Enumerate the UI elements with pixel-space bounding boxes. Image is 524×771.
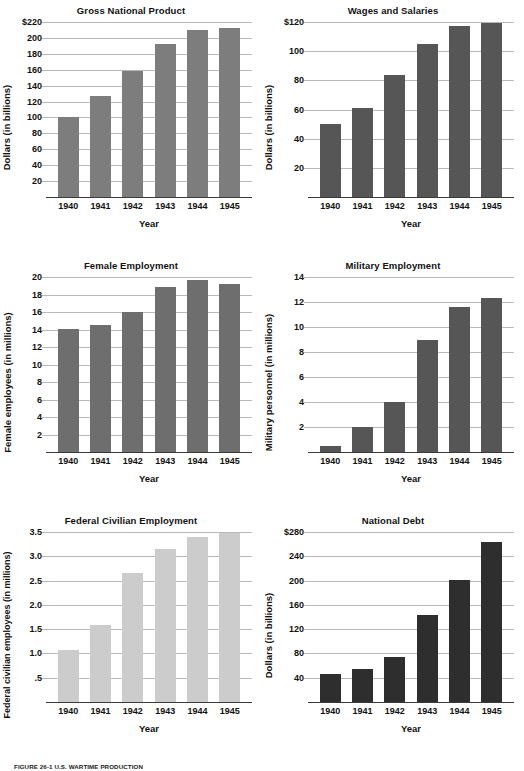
bar-slot <box>411 22 443 197</box>
bar-slot <box>52 277 84 452</box>
chart-panel-national-debt: National Debt Dollars (in billions) 4080… <box>262 510 524 760</box>
y-tick-mark <box>304 556 308 557</box>
plot-area: .51.01.52.02.53.03.5 <box>46 532 252 703</box>
x-tick-label: 1944 <box>443 703 475 716</box>
x-tick-label: 1943 <box>149 453 181 466</box>
y-tick-label: 3.0 <box>29 551 42 561</box>
bar-series <box>314 22 508 197</box>
bar-slot <box>214 22 246 197</box>
y-tick-mark <box>42 117 46 118</box>
bar <box>417 615 438 702</box>
y-tick-mark <box>42 54 46 55</box>
bar-slot <box>411 532 443 702</box>
plot-area: 20406080100$120 <box>308 22 514 198</box>
y-axis-title: Dollars (in billions) <box>262 0 276 255</box>
y-tick-mark <box>304 377 308 378</box>
bar-slot <box>443 22 475 197</box>
bar-slot <box>314 22 346 197</box>
y-tick-label: 20 <box>294 163 304 173</box>
y-tick-mark <box>42 165 46 166</box>
x-tick-label: 1945 <box>214 453 246 466</box>
y-tick-label: 3.5 <box>29 527 42 537</box>
y-tick-mark <box>304 302 308 303</box>
bar-slot <box>52 532 84 702</box>
y-tick-label: $220 <box>22 17 42 27</box>
y-tick-label: 100 <box>27 112 42 122</box>
bar <box>219 28 240 197</box>
bar <box>320 124 341 197</box>
y-tick-mark <box>42 556 46 557</box>
x-tick-label: 1945 <box>214 703 246 716</box>
y-tick-label: 2.5 <box>29 576 42 586</box>
y-tick-label: $280 <box>284 527 304 537</box>
y-tick-mark <box>304 678 308 679</box>
chart-title: Gross National Product <box>0 0 262 16</box>
x-tick-label: 1940 <box>314 453 346 466</box>
y-tick-mark <box>42 417 46 418</box>
y-tick-label: 14 <box>32 325 42 335</box>
y-tick-mark <box>42 277 46 278</box>
bar <box>320 446 341 452</box>
bar <box>384 75 405 198</box>
y-tick-mark <box>42 347 46 348</box>
x-tick-label: 1942 <box>379 453 411 466</box>
y-tick-label: 80 <box>32 128 42 138</box>
x-tick-label: 1942 <box>117 198 149 211</box>
y-tick-mark <box>42 330 46 331</box>
x-tick-label: 1940 <box>52 453 84 466</box>
bar-slot <box>117 277 149 452</box>
y-tick-mark <box>304 352 308 353</box>
bar <box>449 580 470 702</box>
bar-slot <box>84 277 116 452</box>
x-tick-label: 1942 <box>117 453 149 466</box>
x-axis-ticks: 194019411942194319441945 <box>46 703 252 716</box>
bar-slot <box>346 532 378 702</box>
x-tick-label: 1941 <box>84 198 116 211</box>
y-tick-mark <box>42 86 46 87</box>
bar <box>352 108 373 197</box>
bar <box>90 96 111 197</box>
bar <box>122 573 143 702</box>
bar-slot <box>443 277 475 452</box>
chart-title: Female Employment <box>0 255 262 271</box>
y-tick-label: 240 <box>289 551 304 561</box>
y-tick-mark <box>42 605 46 606</box>
y-tick-mark <box>304 629 308 630</box>
y-tick-label: 140 <box>27 81 42 91</box>
chart-panel-female-employment: Female Employment Female employees (in m… <box>0 255 262 510</box>
x-tick-label: 1943 <box>411 703 443 716</box>
figure-caption: FIGURE 26-1 U.S. WARTIME PRODUCTION <box>14 763 143 771</box>
y-tick-label: 10 <box>294 322 304 332</box>
plot-wrap: 20406080100$120 <box>308 22 514 198</box>
bar <box>449 307 470 452</box>
bar <box>90 325 111 452</box>
y-tick-label: 40 <box>294 673 304 683</box>
y-axis-title: Federal civilian employees (in millions) <box>0 510 14 760</box>
y-tick-label: 160 <box>27 65 42 75</box>
y-tick-mark <box>42 70 46 71</box>
x-tick-label: 1943 <box>149 198 181 211</box>
y-tick-label: 18 <box>32 290 42 300</box>
x-axis-title: Year <box>46 218 252 229</box>
bar <box>187 30 208 197</box>
plot-area: 4080120160200240$280 <box>308 532 514 703</box>
bar <box>352 427 373 452</box>
bar-slot <box>314 277 346 452</box>
y-tick-mark <box>304 80 308 81</box>
y-axis-title: Dollars (in billions) <box>262 510 276 760</box>
y-tick-label: 60 <box>294 105 304 115</box>
plot-area: 2468101214 <box>308 277 514 453</box>
chart-panel-gross-national-product: Gross National Product Dollars (in billi… <box>0 0 262 255</box>
y-tick-label: 2 <box>37 430 42 440</box>
bar-slot <box>84 22 116 197</box>
x-tick-label: 1942 <box>379 703 411 716</box>
x-axis-ticks: 194019411942194319441945 <box>308 198 514 211</box>
x-tick-label: 1945 <box>476 453 508 466</box>
bar-slot <box>476 532 508 702</box>
bar <box>187 280 208 452</box>
y-tick-label: 12 <box>294 297 304 307</box>
y-tick-label: 12 <box>32 342 42 352</box>
y-tick-mark <box>304 22 308 23</box>
y-tick-label: .5 <box>34 673 42 683</box>
y-tick-mark <box>42 295 46 296</box>
